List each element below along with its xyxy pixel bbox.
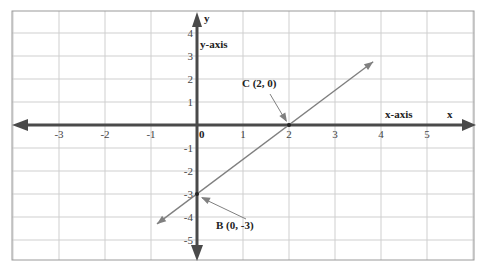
line-end-arrow-icon xyxy=(364,62,373,70)
point-b-callout-arrow-icon xyxy=(201,197,211,204)
y-tick-label: -2 xyxy=(184,165,193,177)
x-tick-label: 5 xyxy=(424,128,430,140)
x-tick-label: 2 xyxy=(286,128,292,140)
y-tick-label: 1 xyxy=(188,96,194,108)
y-axis-down-arrow-icon xyxy=(191,245,203,261)
x-axis-name: x xyxy=(447,108,453,120)
x-tick-label: 1 xyxy=(240,128,246,140)
y-axis-name: y xyxy=(204,12,210,24)
x-tick-label: 0 xyxy=(199,128,205,140)
y-axis-up-arrow-icon xyxy=(192,12,202,27)
point-b-label: B (0, -3) xyxy=(216,219,254,232)
y-tick-label: 3 xyxy=(188,50,194,62)
x-tick-label: -2 xyxy=(100,128,109,140)
y-tick-label: 4 xyxy=(188,27,194,39)
coordinate-plane-chart: -3-2-10123454321-1-2-3-4-5 y y-axis x-ax… xyxy=(0,0,484,272)
data-point xyxy=(287,123,291,127)
y-tick-label: -5 xyxy=(184,234,194,246)
x-axis-label: x-axis xyxy=(385,108,413,120)
y-tick-label: 2 xyxy=(188,73,194,85)
x-tick-label: -1 xyxy=(146,128,155,140)
point-c-label: C (2, 0) xyxy=(242,77,277,90)
y-tick-label: -1 xyxy=(184,142,193,154)
x-tick-label: -3 xyxy=(54,128,64,140)
x-tick-label: 3 xyxy=(332,128,338,140)
y-axis-label: y-axis xyxy=(200,38,228,50)
x-axis-left-arrow-icon xyxy=(12,119,28,131)
y-tick-label: -4 xyxy=(184,211,194,223)
point-c-callout-arrow-icon xyxy=(279,112,287,122)
annotations: y y-axis x-axis x C (2, 0) B (0, -3) xyxy=(200,12,453,232)
tick-labels: -3-2-10123454321-1-2-3-4-5 xyxy=(54,27,430,246)
data-point xyxy=(195,192,199,196)
x-tick-label: 4 xyxy=(378,128,384,140)
